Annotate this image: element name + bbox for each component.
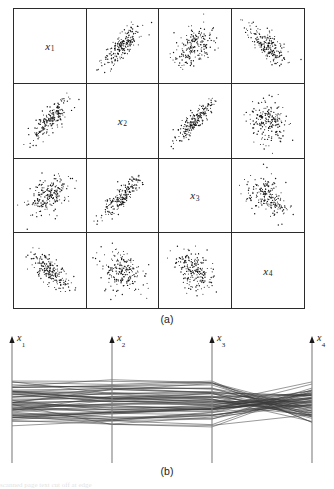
spm-scatter-points — [159, 9, 231, 83]
spm-diagonal-cell-x2: x2 — [87, 84, 160, 159]
spm-scatter-cell-x4-x3 — [232, 159, 305, 234]
spm-scatter-points — [87, 159, 159, 233]
spm-scatter-points — [159, 233, 231, 308]
spm-scatter-cell-x3-x1 — [159, 9, 232, 84]
spm-scatter-cell-x2-x1 — [87, 9, 160, 84]
spm-diagonal-cell-x3: x3 — [159, 159, 232, 234]
spm-scatter-points — [14, 233, 86, 308]
pcp-axis-label-x1: x1 — [17, 332, 25, 346]
spm-scatter-cell-x3-x2 — [159, 84, 232, 159]
spm-scatter-cell-x1-x2 — [14, 84, 87, 159]
spm-scatter-points — [87, 9, 159, 83]
spm-variable-label-x3: x3 — [159, 159, 231, 233]
spm-variable-label-x2: x2 — [87, 84, 159, 158]
spm-scatter-points — [14, 84, 86, 158]
spm-scatter-cell-x2-x4 — [87, 233, 160, 308]
figure-container: x1x2x3x4 (a) x1x2x3x4 (b) scanned page t… — [0, 0, 334, 489]
pcp-axis-label-x4: x4 — [317, 332, 325, 346]
spm-scatter-points — [159, 84, 231, 158]
spm-scatter-cell-x3-x4 — [159, 233, 232, 308]
parallel-coordinates-canvas — [0, 333, 334, 465]
spm-variable-label-x1: x1 — [14, 9, 86, 83]
panel-b-caption: (b) — [0, 465, 334, 477]
spm-scatter-points — [14, 159, 86, 233]
pcp-axis-label-x2: x2 — [117, 332, 125, 346]
spm-scatter-points — [232, 159, 305, 233]
pcp-series-lines — [12, 380, 312, 427]
scatter-plot-matrix: x1x2x3x4 — [13, 8, 305, 309]
spm-scatter-cell-x4-x2 — [232, 84, 305, 159]
spm-scatter-points — [87, 233, 159, 308]
spm-scatter-cell-x4-x1 — [232, 9, 305, 84]
spm-scatter-points — [232, 9, 305, 83]
parallel-coordinates-plot: x1x2x3x4 — [0, 333, 334, 465]
spm-variable-label-x4: x4 — [232, 233, 305, 308]
spm-diagonal-cell-x1: x1 — [14, 9, 87, 84]
spm-scatter-cell-x2-x3 — [87, 159, 160, 234]
spm-scatter-cell-x1-x4 — [14, 233, 87, 308]
spm-scatter-points — [232, 84, 305, 158]
page-bottom-text-strip: scanned page text cut off at edge — [0, 481, 334, 489]
spm-scatter-cell-x1-x3 — [14, 159, 87, 234]
spm-diagonal-cell-x4: x4 — [232, 233, 305, 308]
pcp-axis-label-x3: x3 — [217, 332, 225, 346]
panel-a-caption: (a) — [0, 313, 334, 325]
